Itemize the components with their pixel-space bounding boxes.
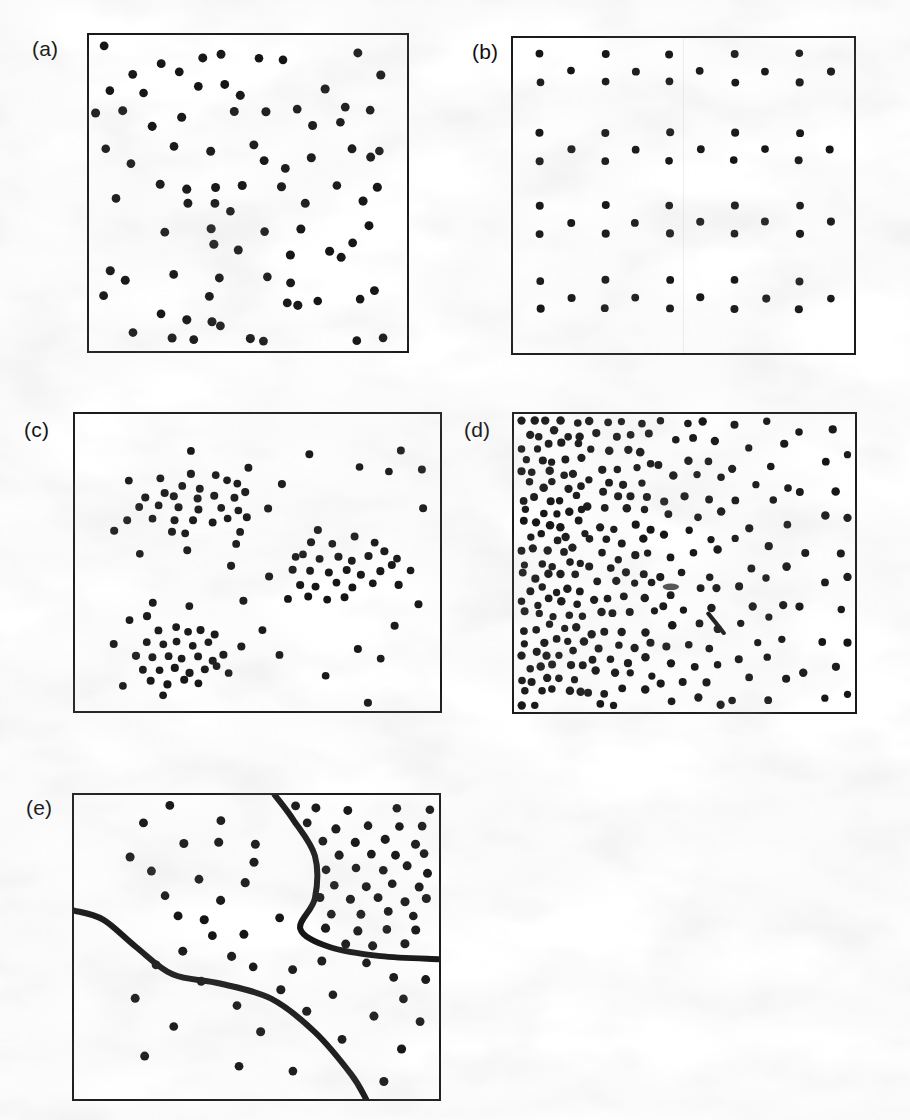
panel-b-scatter bbox=[513, 38, 854, 353]
panel-d-plot bbox=[514, 414, 855, 712]
panel-d-scatter bbox=[514, 414, 855, 712]
panel-b-frame bbox=[511, 36, 856, 355]
panel-b-label: (b) bbox=[472, 41, 498, 62]
panel-a-frame bbox=[87, 33, 409, 353]
panel-d-frame bbox=[512, 412, 857, 714]
panel-e-label: (e) bbox=[26, 797, 52, 818]
panel-c-label: (c) bbox=[24, 419, 49, 440]
lower-boundary-curve bbox=[74, 911, 366, 1099]
panel-c-scatter bbox=[75, 414, 440, 711]
panel-e-boundaries-and-scatter bbox=[74, 795, 439, 1099]
panel-e-plot bbox=[74, 795, 439, 1099]
panel-c-plot bbox=[75, 414, 440, 711]
panel-c-frame bbox=[73, 412, 442, 713]
panel-e-frame bbox=[72, 793, 441, 1101]
panel-a-plot bbox=[89, 35, 407, 351]
panel-b-plot bbox=[513, 38, 854, 353]
panel-d-label: (d) bbox=[464, 419, 490, 440]
panel-a-scatter bbox=[89, 35, 407, 351]
panel-a-label: (a) bbox=[32, 38, 58, 59]
